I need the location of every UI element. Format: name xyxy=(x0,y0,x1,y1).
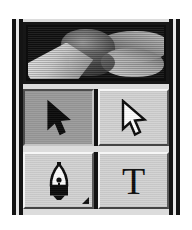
selection-tool-button[interactable] xyxy=(23,89,94,146)
type-T-icon: T xyxy=(100,154,167,207)
palette-content: T xyxy=(23,19,169,215)
type-tool-button[interactable]: T xyxy=(98,152,169,209)
palette-frame: T xyxy=(12,19,180,215)
arrow-cursor-hollow-icon xyxy=(100,91,167,144)
pen-tool-button[interactable] xyxy=(23,152,94,209)
type-tool-glyph: T xyxy=(122,162,145,200)
tool-row-pen-type: T xyxy=(23,152,169,209)
direct-selection-tool-button[interactable] xyxy=(98,89,169,146)
frame-right-outer-bar xyxy=(176,19,180,215)
toolbox-palette-window: T xyxy=(0,0,192,230)
pen-tool-flyout-triangle-icon[interactable] xyxy=(82,197,89,204)
arrow-cursor-filled-icon xyxy=(25,91,92,144)
image-preview-canvas xyxy=(28,27,164,79)
tool-row-selection xyxy=(23,89,169,146)
image-preview[interactable] xyxy=(23,22,169,84)
